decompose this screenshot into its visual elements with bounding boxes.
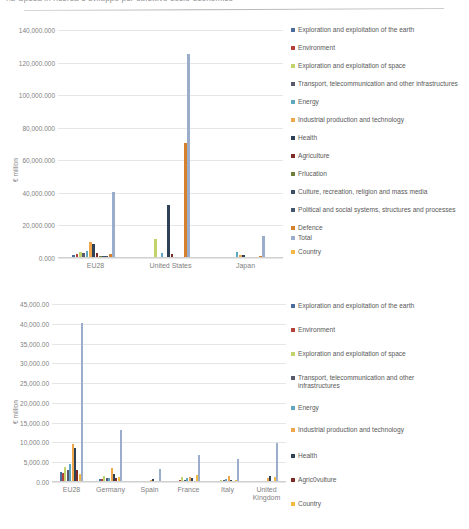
- legend-swatch-icon: [291, 46, 295, 50]
- gridline: [52, 482, 286, 483]
- legend-label: Defence: [298, 224, 323, 232]
- legend-swatch-icon: [291, 236, 295, 240]
- legend-label: Agriculture: [298, 152, 330, 160]
- gridline: [58, 63, 283, 64]
- x-axis-tick-label: France: [169, 486, 208, 494]
- legend-item[interactable]: Environment: [291, 44, 335, 52]
- legend-swatch-icon: [291, 428, 295, 432]
- legend-swatch-icon: [291, 172, 295, 176]
- bar: [167, 205, 170, 258]
- chart-bottom-legend: Exploration and exploitation of the eart…: [291, 300, 469, 520]
- bar: [187, 54, 190, 258]
- x-axis-line: [58, 257, 283, 258]
- x-axis-tick-label: EU28: [52, 486, 91, 494]
- legend-swatch-icon: [291, 352, 295, 356]
- legend-swatch-icon: [291, 208, 295, 212]
- y-axis-tick-label: 25,000.00: [4, 380, 49, 387]
- gridline: [58, 30, 283, 31]
- legend-label: Frlucation: [298, 170, 327, 178]
- legend-item[interactable]: Health: [291, 452, 317, 460]
- legend-item[interactable]: Transport, telecommunication and other i…: [291, 374, 454, 390]
- legend-item[interactable]: Energy: [291, 404, 319, 412]
- legend-label: Country: [298, 500, 321, 508]
- y-axis-tick-label: 120,000.000: [4, 59, 55, 66]
- header-divider: [24, 8, 444, 11]
- page-caption: 4.2 Spesa in ricerca e sviluppo per obie…: [4, 0, 233, 3]
- legend-label: Health: [298, 134, 317, 142]
- legend-swatch-icon: [291, 328, 295, 332]
- legend-swatch-icon: [291, 304, 295, 308]
- legend-label: Industrial production and technology: [298, 426, 404, 434]
- y-axis-tick-label: 60,000.000: [4, 157, 55, 164]
- legend-item[interactable]: Agriculture: [291, 152, 330, 160]
- gridline: [52, 324, 286, 325]
- legend-swatch-icon: [291, 118, 295, 122]
- legend-item[interactable]: Frlucation: [291, 170, 327, 178]
- gridline: [52, 383, 286, 384]
- legend-item[interactable]: Agric0vulture: [291, 476, 336, 484]
- legend-swatch-icon: [291, 250, 295, 254]
- gridline: [52, 423, 286, 424]
- legend-label: Transport, telecommunication and other i…: [298, 374, 454, 390]
- legend-item[interactable]: Political and social systems, structures…: [291, 206, 456, 214]
- y-axis-tick-label: 80,000.000: [4, 124, 55, 131]
- legend-swatch-icon: [291, 454, 295, 458]
- legend-label: Environment: [298, 44, 335, 52]
- legend-item[interactable]: Country: [291, 500, 321, 508]
- legend-item[interactable]: Energy: [291, 98, 319, 106]
- bar: [262, 236, 265, 258]
- y-axis-tick-label: 10,000.00: [4, 439, 49, 446]
- legend-swatch-icon: [291, 136, 295, 140]
- y-axis-tick-label: 20,000.00: [4, 399, 49, 406]
- bar: [81, 323, 83, 482]
- legend-item[interactable]: Exploration and exploitation of the eart…: [291, 302, 414, 310]
- legend-item[interactable]: Transport, telecommunication and other i…: [291, 80, 458, 88]
- y-axis-tick-label: 100,000.000: [4, 92, 55, 99]
- legend-item[interactable]: Exploration and exploitation of space: [291, 62, 406, 70]
- legend-swatch-icon: [291, 376, 295, 380]
- y-axis-tick-label: 5,000.00: [4, 459, 49, 466]
- chart-top-legend: Exploration and exploitation of the eart…: [291, 24, 469, 274]
- legend-swatch-icon: [291, 28, 295, 32]
- y-axis-tick-label: 20,000.000: [4, 222, 55, 229]
- document-page: 4.2 Spesa in ricerca e sviluppo per obie…: [0, 0, 469, 529]
- y-axis-tick-label: 35,000.00: [4, 340, 49, 347]
- bar: [198, 455, 200, 482]
- gridline: [58, 95, 283, 96]
- legend-item[interactable]: Defence: [291, 224, 323, 232]
- gridline: [58, 160, 283, 161]
- legend-item[interactable]: Country: [291, 248, 321, 256]
- gridline: [52, 442, 286, 443]
- legend-item[interactable]: Exploration and exploitation of space: [291, 350, 406, 358]
- x-axis-tick-label: EU28: [58, 262, 133, 270]
- legend-item[interactable]: Industrial production and technology: [291, 426, 404, 434]
- legend-swatch-icon: [291, 190, 295, 194]
- bar: [120, 430, 122, 482]
- y-axis-tick-label: 40,000.000: [4, 189, 55, 196]
- chart-top: € million 140,000.000120,000.000100,000.…: [0, 22, 290, 277]
- legend-label: Culture, recreation, religion and mass m…: [298, 188, 427, 196]
- x-axis-tick-label: Spain: [130, 486, 169, 494]
- gridline: [52, 462, 286, 463]
- legend-label: Total: [298, 234, 312, 242]
- bar: [154, 239, 157, 258]
- legend-label: Transport, telecommunication and other i…: [298, 80, 458, 88]
- y-axis-tick-label: 140,000.000: [4, 27, 55, 34]
- legend-item[interactable]: Health: [291, 134, 317, 142]
- x-axis-tick-label: Italy: [208, 486, 247, 494]
- gridline: [58, 193, 283, 194]
- legend-item[interactable]: Total: [291, 234, 312, 242]
- page-header-strip: 4.2 Spesa in ricerca e sviluppo per obie…: [0, 0, 469, 14]
- legend-item[interactable]: Environment: [291, 326, 335, 334]
- legend-item[interactable]: Culture, recreation, religion and mass m…: [291, 188, 427, 196]
- legend-item[interactable]: Exploration and exploitation of the eart…: [291, 26, 414, 34]
- legend-swatch-icon: [291, 82, 295, 86]
- legend-item[interactable]: Industrial production and technology: [291, 116, 404, 124]
- bar: [237, 459, 239, 482]
- x-axis-tick-label: Japan: [208, 262, 283, 270]
- chart-top-plot-area: [58, 30, 283, 258]
- legend-label: Agric0vulture: [298, 476, 336, 484]
- x-axis-tick-label: Germany: [91, 486, 130, 494]
- y-axis-tick-label: 0.00: [4, 479, 49, 486]
- legend-label: Exploration and exploitation of space: [298, 62, 406, 70]
